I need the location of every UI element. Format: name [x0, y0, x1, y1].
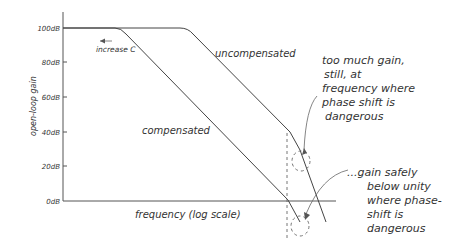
safe-gain-leader	[306, 170, 348, 214]
note-line: ...gain safely	[347, 166, 418, 179]
compensated-label: compensated	[142, 125, 211, 136]
note-line: still, at	[324, 68, 362, 81]
arrowhead-icon	[100, 39, 105, 44]
arrowhead-icon	[302, 148, 307, 155]
increase-c-label: increase C	[96, 45, 136, 54]
note-line: dangerous	[325, 110, 384, 123]
tick-label-60: 60dB	[42, 94, 60, 102]
note-line: too much gain,	[322, 54, 405, 67]
safe-gain-circle	[291, 216, 309, 236]
y-tick-labels: 100dB 80dB 60dB 40dB 20dB 0dB	[37, 25, 60, 206]
x-axis-label: frequency (log scale)	[135, 209, 241, 220]
increase-c-annotation: increase C	[96, 39, 136, 55]
uncompensated-label: uncompensated	[215, 48, 296, 59]
bode-plot-diagram: 100dB 80dB 60dB 40dB 20dB 0dB open-loop …	[0, 0, 462, 240]
safe-gain-note: ...gain safely below unity where phase- …	[347, 166, 442, 235]
note-line: below unity	[367, 180, 431, 193]
note-line: frequency where	[322, 82, 415, 95]
too-much-gain-note: too much gain, still, at frequency where…	[321, 54, 415, 123]
note-line: where phase-	[367, 194, 442, 207]
tick-label-100: 100dB	[37, 25, 60, 33]
note-line: dangerous	[367, 222, 426, 235]
tick-label-0: 0dB	[46, 198, 60, 206]
note-line: shift is	[367, 208, 403, 221]
tick-label-80: 80dB	[42, 59, 60, 67]
arrowhead-icon	[304, 212, 310, 220]
too-much-gain-leader	[304, 96, 317, 150]
tick-label-40: 40dB	[42, 129, 60, 137]
y-axis-label: open-loop gain	[29, 76, 38, 136]
note-line: phase shift is	[321, 96, 395, 109]
tick-label-20: 20dB	[42, 163, 60, 171]
